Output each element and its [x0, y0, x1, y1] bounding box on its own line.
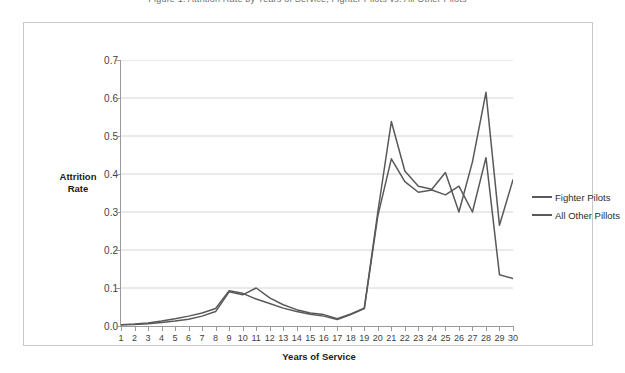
legend-item[interactable]: All Other Pillots — [532, 207, 625, 223]
x-axis-tick-mark — [310, 327, 311, 331]
x-axis-tick-mark — [472, 327, 473, 331]
x-axis-tick-mark — [270, 327, 271, 331]
x-axis-tick-mark — [486, 327, 487, 331]
legend-line-swatch-icon — [532, 196, 552, 198]
x-axis-tick-mark — [121, 327, 122, 331]
x-axis-tick-mark — [175, 327, 176, 331]
x-axis-tick-mark — [405, 327, 406, 331]
x-axis-tick-mark — [283, 327, 284, 331]
x-axis-tick-mark — [364, 327, 365, 331]
series-line — [121, 92, 513, 325]
x-axis-tick-mark — [432, 327, 433, 331]
x-axis-tick-mark — [351, 327, 352, 331]
legend-line-swatch-icon — [532, 214, 552, 216]
x-axis-tick-mark — [216, 327, 217, 331]
x-axis-title: Years of Service — [204, 351, 434, 362]
chart-frame: Attrition Rate 0.00.10.20.30.40.50.60.7 … — [23, 22, 593, 346]
x-axis-tick-mark — [202, 327, 203, 331]
x-axis-tick-mark — [162, 327, 163, 331]
y-axis-tick-mark — [116, 250, 121, 251]
y-axis-tick-mark — [116, 288, 121, 289]
x-axis-tick-mark — [148, 327, 149, 331]
x-axis-tick-mark — [418, 327, 419, 331]
y-axis-tick-mark — [116, 212, 121, 213]
y-axis-tick-mark — [116, 136, 121, 137]
x-axis-tick-mark — [135, 327, 136, 331]
x-axis-tick-mark — [229, 327, 230, 331]
x-axis-tick-mark — [513, 327, 514, 331]
x-axis-tick-mark — [256, 327, 257, 331]
x-axis-tick-mark — [324, 327, 325, 331]
x-axis-tick-mark — [445, 327, 446, 331]
y-axis-tick-labels: 0.00.10.20.30.40.50.60.7 — [82, 53, 118, 333]
x-axis-tick-mark — [459, 327, 460, 331]
x-axis-tick-label: 30 — [504, 333, 522, 343]
x-axis-tick-mark — [189, 327, 190, 331]
legend-item-label: Fighter Pilots — [555, 192, 610, 203]
plot-svg — [121, 60, 513, 326]
legend-item-label: All Other Pillots — [555, 210, 620, 221]
x-axis-tick-mark — [297, 327, 298, 331]
y-axis-tick-mark — [116, 174, 121, 175]
legend-item[interactable]: Fighter Pilots — [532, 189, 625, 205]
figure-caption: Figure 1. Attrition Rate by Years of Ser… — [0, 0, 615, 6]
plot-area — [121, 60, 513, 326]
x-axis-line — [120, 326, 514, 327]
x-axis-tick-mark — [337, 327, 338, 331]
chart-legend: Fighter PilotsAll Other Pillots — [532, 189, 625, 225]
series-line — [121, 158, 513, 325]
y-axis-tick-mark — [116, 60, 121, 61]
x-axis-tick-mark — [499, 327, 500, 331]
x-axis-tick-mark — [391, 327, 392, 331]
y-axis-tick-mark — [116, 98, 121, 99]
x-axis-tick-mark — [378, 327, 379, 331]
x-axis-tick-mark — [243, 327, 244, 331]
